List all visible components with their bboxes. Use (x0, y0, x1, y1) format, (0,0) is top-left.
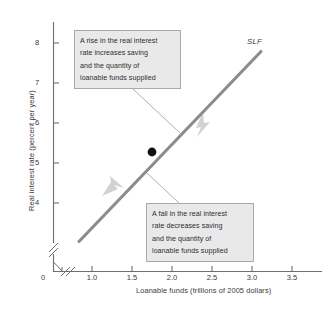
equilibrium-point (148, 148, 157, 157)
slf-curve-label: SLF (247, 37, 262, 46)
rise-annotation-line-3: and the quantity of (80, 60, 175, 72)
down-left-arrow (102, 176, 124, 196)
x-tick-label-3-0: 3.0 (240, 273, 264, 282)
fall-annotation-line-3: and the quantity of (152, 233, 248, 245)
y-axis-title: Real interest rate (percent per year) (27, 46, 36, 256)
rise-annotation-line-1: A rise in the real interest (80, 35, 175, 47)
x-tick-label-1-0: 1.0 (80, 273, 104, 282)
fall-annotation-leader (147, 173, 179, 203)
x-axis-title: Loanable funds (trillions of 2005 dollar… (136, 286, 271, 295)
x-tick-label-3-5: 3.5 (280, 273, 304, 282)
fall-annotation-line-4: loanable funds supplied (152, 245, 248, 257)
fall-annotation-box: A fall in the real interest rate decreas… (146, 203, 254, 262)
x-tick-label-1-5: 1.5 (120, 273, 144, 282)
y-axis-ticks (54, 43, 60, 203)
fall-annotation-line-1: A fall in the real interest (152, 208, 248, 220)
rise-annotation-line-2: rate increases saving (80, 47, 175, 59)
loanable-funds-chart: SLF A rise in the real interest rate inc… (0, 0, 328, 310)
x-axis-ticks (92, 266, 292, 272)
origin-tick-label: 0 (31, 273, 55, 282)
x-tick-label-2-5: 2.5 (200, 273, 224, 282)
rise-annotation-leader (133, 89, 180, 133)
fall-annotation-line-2: rate decreases saving (152, 220, 248, 232)
origin-arrow-icon (54, 262, 63, 272)
rise-annotation-box: A rise in the real interest rate increas… (74, 30, 181, 89)
rise-annotation-line-4: loanable funds supplied (80, 72, 175, 84)
x-tick-label-2-0: 2.0 (160, 273, 184, 282)
